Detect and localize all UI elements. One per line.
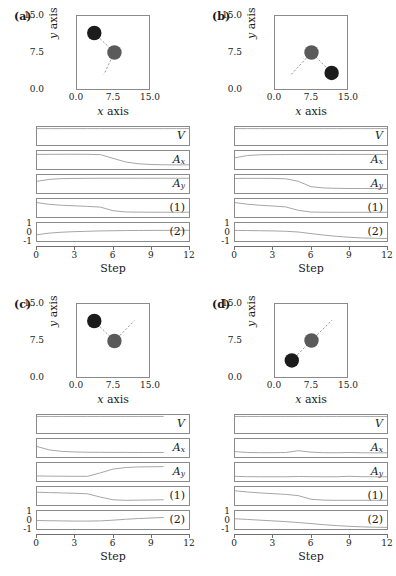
strip-label: Ax: [371, 154, 383, 166]
timeseries-strips: VAxAy(1)(2)10-1: [198, 126, 396, 246]
scatter-y-tick: 7.5: [216, 47, 242, 57]
step-tick-label: 0: [26, 538, 46, 548]
scatter-x-axis-label: x axis: [76, 105, 150, 118]
step-tick-label: 0: [224, 250, 244, 260]
timeseries-strips: VAxAy(1)(2)10-1: [0, 126, 198, 246]
step-tick-label: 6: [103, 250, 123, 260]
timeseries-strips: VAxAy(1)(2)10-1: [0, 414, 198, 534]
strip-label: V: [375, 418, 383, 429]
step-axis-label: Step: [234, 550, 388, 563]
scatter-y-tick: 15.0: [18, 298, 44, 308]
strip-label: (1): [169, 490, 185, 501]
scatter-plot: 15.07.50.00.07.515.0y axisx axis: [198, 0, 396, 128]
strip-label: Ay: [173, 178, 185, 190]
step-tick-label: 6: [301, 538, 321, 548]
strip-2: (2): [234, 222, 388, 242]
figure-root: (a)15.07.50.00.07.515.0y axisx axisVAxAy…: [0, 0, 396, 576]
scatter-plot: 15.07.50.00.07.515.0y axisx axis: [0, 0, 198, 128]
scatter-x-tick: 7.5: [297, 92, 325, 102]
scatter-axes-frame: [274, 15, 348, 90]
step-axis-label: Step: [36, 550, 190, 563]
scatter-y-axis-label: y axis: [245, 295, 258, 327]
strip-label: Ay: [371, 466, 383, 478]
panel-a: (a)15.07.50.00.07.515.0y axisx axisVAxAy…: [0, 0, 198, 288]
strip-V: V: [36, 126, 190, 146]
step-tick-label: 6: [103, 538, 123, 548]
step-tick-label: 6: [301, 250, 321, 260]
scatter-x-axis-label: x axis: [274, 105, 348, 118]
strip-Ay: Ay: [36, 462, 190, 482]
strip-label: (1): [367, 202, 383, 213]
scatter-x-tick: 0.0: [62, 380, 90, 390]
step-tick-label: 0: [224, 538, 244, 548]
strip-Ay: Ay: [234, 462, 388, 482]
strip-2: (2): [36, 510, 190, 530]
scatter-y-tick: 7.5: [216, 335, 242, 345]
scatter-y-tick: 0.0: [18, 84, 44, 94]
step-axis-label: Step: [234, 262, 388, 275]
scatter-x-tick: 15.0: [334, 92, 362, 102]
scatter-x-tick: 0.0: [62, 92, 90, 102]
step-tick-label: 9: [141, 250, 161, 260]
strip-label: Ay: [371, 178, 383, 190]
strip-label: (2): [367, 514, 383, 525]
scatter-axes-frame: [274, 303, 348, 378]
scatter-y-axis-label: y axis: [47, 7, 60, 39]
strip-label: (2): [367, 226, 383, 237]
strip-1: (1): [234, 486, 388, 506]
strip-label: Ax: [173, 442, 185, 454]
scatter-x-tick: 7.5: [297, 380, 325, 390]
scatter-axes-frame: [76, 303, 150, 378]
scatter-x-tick: 15.0: [136, 380, 164, 390]
step-tick-label: 9: [141, 538, 161, 548]
scatter-x-tick: 15.0: [136, 92, 164, 102]
panel-b: (b)15.07.50.00.07.515.0y axisx axisVAxAy…: [198, 0, 396, 288]
scatter-axes-frame: [76, 15, 150, 90]
scatter-x-tick: 7.5: [99, 380, 127, 390]
scatter-y-tick: 7.5: [18, 47, 44, 57]
strip-V: V: [234, 126, 388, 146]
strip-label: Ax: [371, 442, 383, 454]
strip-label: (2): [169, 226, 185, 237]
strip-y-tick: -1: [216, 525, 230, 534]
strip-label: V: [177, 418, 185, 429]
timeseries-strips: VAxAy(1)(2)10-1: [198, 414, 396, 534]
strip-y-tick: -1: [18, 525, 32, 534]
scatter-y-axis-label: y axis: [245, 7, 258, 39]
strip-1: (1): [234, 198, 388, 218]
strip-1: (1): [36, 198, 190, 218]
strip-V: V: [234, 414, 388, 434]
strip-Ax: Ax: [234, 438, 388, 458]
scatter-x-tick: 0.0: [260, 380, 288, 390]
step-axis-label: Step: [36, 262, 190, 275]
step-tick-label: 3: [64, 250, 84, 260]
step-tick-label: 0: [26, 250, 46, 260]
strip-label: Ay: [173, 466, 185, 478]
strip-label: (1): [169, 202, 185, 213]
panel-c: (c)15.07.50.00.07.515.0y axisx axisVAxAy…: [0, 288, 198, 576]
scatter-x-axis-label: x axis: [76, 393, 150, 406]
strip-2: (2): [234, 510, 388, 530]
step-tick-label: 12: [179, 538, 199, 548]
scatter-x-tick: 15.0: [334, 380, 362, 390]
strip-V: V: [36, 414, 190, 434]
strip-y-tick: -1: [18, 237, 32, 246]
step-tick-label: 12: [377, 538, 396, 548]
scatter-y-tick: 15.0: [18, 10, 44, 20]
strip-2: (2): [36, 222, 190, 242]
step-tick-label: 3: [64, 538, 84, 548]
strip-label: (1): [367, 490, 383, 501]
strip-label: (2): [169, 514, 185, 525]
strip-label: V: [375, 130, 383, 141]
scatter-y-tick: 0.0: [18, 372, 44, 382]
scatter-y-tick: 15.0: [216, 10, 242, 20]
scatter-x-axis-label: x axis: [274, 393, 348, 406]
step-tick-label: 3: [262, 250, 282, 260]
strip-Ax: Ax: [36, 438, 190, 458]
strip-y-tick: -1: [216, 237, 230, 246]
step-tick-label: 12: [179, 250, 199, 260]
scatter-y-axis-label: y axis: [47, 295, 60, 327]
strip-Ax: Ax: [234, 150, 388, 170]
scatter-y-tick: 7.5: [18, 335, 44, 345]
strip-label: V: [177, 130, 185, 141]
